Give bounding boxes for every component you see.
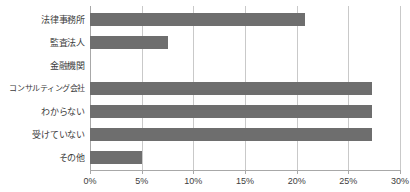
- x-tick: [400, 170, 401, 174]
- bar-6: [90, 151, 142, 164]
- bar-row: [90, 77, 400, 100]
- bar-0: [90, 13, 305, 26]
- y-axis-label-3: コンサルティング会社: [9, 82, 85, 96]
- x-tick-label: 15%: [236, 176, 254, 186]
- bar-5: [90, 128, 372, 141]
- x-tick: [193, 170, 194, 174]
- x-tick-label: 20%: [288, 176, 306, 186]
- bar-row: [90, 54, 400, 77]
- bar-row: [90, 146, 400, 169]
- y-axis-label-0: 法律事務所: [41, 13, 85, 27]
- y-axis-label-4: わからない: [41, 105, 85, 119]
- y-axis-label-6: その他: [59, 151, 85, 165]
- bar-row: [90, 31, 400, 54]
- x-tick: [142, 170, 143, 174]
- x-tick: [245, 170, 246, 174]
- bar-row: [90, 8, 400, 31]
- bar-chart: 法律事務所 監査法人 金融機関 コンサルティング会社 わからない 受けていない …: [0, 0, 410, 192]
- x-tick: [297, 170, 298, 174]
- y-axis-category-labels: 法律事務所 監査法人 金融機関 コンサルティング会社 わからない 受けていない …: [0, 8, 88, 170]
- bar-4: [90, 105, 372, 118]
- x-tick-label: 5%: [135, 176, 148, 186]
- x-tick-label: 30%: [391, 176, 409, 186]
- bar-3: [90, 82, 372, 95]
- bar-row: [90, 100, 400, 123]
- x-tick: [348, 170, 349, 174]
- x-tick-label: 10%: [184, 176, 202, 186]
- bar-row: [90, 123, 400, 146]
- x-tick-label: 25%: [339, 176, 357, 186]
- y-axis-label-2: 金融機関: [50, 59, 85, 73]
- x-tick-label: 0%: [83, 176, 96, 186]
- gridline-30pct: [400, 6, 401, 170]
- y-axis-label-1: 監査法人: [50, 36, 85, 50]
- bar-series: [90, 8, 400, 170]
- bar-1: [90, 36, 168, 49]
- y-axis-label-5: 受けていない: [32, 128, 85, 142]
- plot-area: [90, 6, 400, 170]
- x-tick: [90, 170, 91, 174]
